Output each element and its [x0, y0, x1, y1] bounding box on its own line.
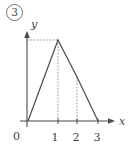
- x-axis-label: x: [119, 115, 126, 128]
- figure-container: 3 y x 0 1 2 3: [0, 0, 133, 154]
- x-tick-label-3: 3: [94, 131, 101, 144]
- x-axis-arrow-icon: [108, 118, 115, 123]
- plot-area: y x 0 1 2 3: [0, 0, 133, 154]
- y-axis-label: y: [30, 18, 38, 31]
- origin-label: 0: [13, 130, 20, 143]
- curve-polyline: [28, 40, 98, 121]
- y-axis-arrow-icon: [24, 31, 30, 38]
- x-tick-label-2: 2: [73, 131, 80, 144]
- x-tick-label-1: 1: [52, 131, 59, 144]
